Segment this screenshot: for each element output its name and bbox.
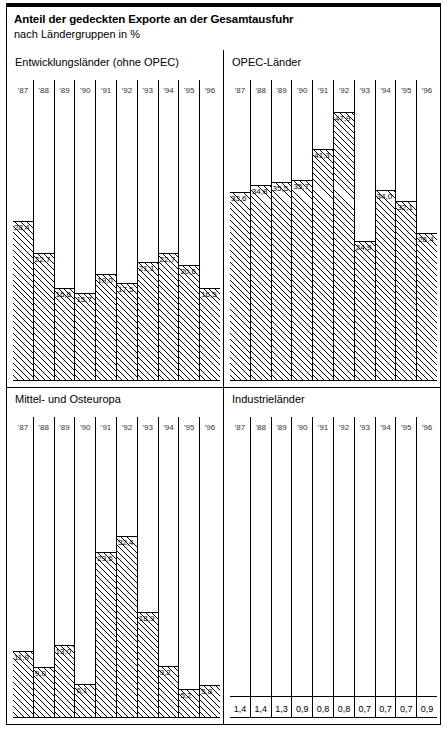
bar: 47,9 — [334, 112, 354, 381]
bar-slot: 35,7 — [291, 100, 312, 381]
bar: 16,6 — [55, 288, 75, 381]
bar-slot: 5,8 — [199, 437, 220, 718]
chart-title: Anteil der gedeckten Exporte an der Gesa… — [14, 12, 429, 26]
bar-slot: 34,0 — [375, 100, 396, 381]
bar-slot: 16,5 — [199, 100, 220, 381]
bar-value-label: 41,3 — [314, 151, 330, 160]
bar-value-label: 21,1 — [139, 264, 155, 273]
bar-slot: 22,7 — [158, 100, 179, 381]
bar: 5,2 — [179, 689, 199, 718]
bar: 33,6 — [230, 192, 250, 381]
bar: 28,4 — [13, 221, 33, 381]
year-axis-entwicklungslander-ohne-opec: '87'88'89'90'91'92'93'94'95'96 — [13, 80, 220, 100]
year-tick: '87 — [13, 417, 33, 437]
bar-slot: 24,9 — [354, 100, 375, 381]
year-tick: '88 — [250, 80, 271, 100]
bar-value-label: 47,9 — [335, 114, 351, 123]
panel-grid: Entwicklungsländer (ohne OPEC)'87'88'89'… — [7, 50, 440, 724]
year-tick: '93 — [137, 80, 158, 100]
year-tick: '87 — [230, 80, 250, 100]
bar: 0,8 — [334, 696, 354, 718]
year-tick: '90 — [74, 417, 95, 437]
year-tick: '90 — [74, 80, 95, 100]
bar-slot: 9,2 — [158, 437, 179, 718]
bar-slot: 0,7 — [375, 437, 396, 718]
bar: 9,2 — [159, 666, 179, 718]
bar: 1,4 — [251, 696, 271, 718]
bar: 0,9 — [292, 696, 312, 718]
year-tick: '92 — [116, 80, 137, 100]
bar-slot: 32,4 — [116, 437, 137, 718]
bar-value-label: 9,0 — [35, 669, 46, 678]
bar-slot: 0,8 — [333, 437, 354, 718]
bar-slot: 19,0 — [95, 100, 116, 381]
bar-slot: 47,9 — [333, 100, 354, 381]
bar-slot: 9,0 — [33, 437, 54, 718]
bar: 15,7 — [75, 293, 95, 381]
bar-slot: 0,9 — [416, 437, 437, 718]
year-tick: '94 — [375, 417, 396, 437]
year-tick: '90 — [291, 417, 312, 437]
panel-mittel-osteuropa: Mittel- und Osteuropa'87'88'89'90'91'92'… — [7, 387, 223, 724]
bar: 19,0 — [96, 274, 116, 381]
year-tick: '88 — [33, 417, 54, 437]
bar-value-label: 16,6 — [56, 290, 72, 299]
bar-slot: 34,8 — [250, 100, 271, 381]
bar: 21,1 — [138, 262, 158, 381]
bar: 5,8 — [200, 685, 220, 718]
bar-slot: 41,3 — [312, 100, 333, 381]
bar-slot: 18,9 — [137, 437, 158, 718]
panel-row-top: Entwicklungsländer (ohne OPEC)'87'88'89'… — [7, 50, 440, 387]
bar-slot: 35,5 — [271, 100, 292, 381]
panel-opec: OPEC-Länder'87'88'89'90'91'92'93'94'95'9… — [224, 50, 440, 387]
plot-area-entwicklungslander-ohne-opec: 28,422,716,615,719,017,521,122,720,616,5 — [13, 100, 220, 381]
bar: 32,4 — [117, 536, 137, 718]
bar-value-label: 34,8 — [252, 187, 268, 196]
panel-title-mittel-und-osteuropa: Mittel- und Osteuropa — [15, 393, 121, 405]
bar: 35,5 — [272, 182, 292, 382]
year-axis-mittel-und-osteuropa: '87'88'89'90'91'92'93'94'95'96 — [13, 417, 220, 437]
bar-value-label: 5,8 — [201, 687, 212, 696]
bar-slot: 22,7 — [33, 100, 54, 381]
chart-heading: Anteil der gedeckten Exporte an der Gesa… — [14, 12, 429, 41]
bar-value-label: 16,5 — [201, 290, 217, 299]
bar-slot: 6,1 — [74, 437, 95, 718]
year-tick: '89 — [54, 417, 75, 437]
bar-value-label: 0,8 — [334, 705, 354, 714]
year-tick: '96 — [199, 417, 220, 437]
bar-value-label: 24,9 — [356, 243, 372, 252]
panel-row-bottom: Mittel- und Osteuropa'87'88'89'90'91'92'… — [7, 387, 440, 724]
year-tick: '94 — [375, 80, 396, 100]
bar-slot: 17,5 — [116, 100, 137, 381]
bar-value-label: 0,7 — [396, 705, 416, 714]
bar: 13,0 — [55, 645, 75, 718]
bar-slot: 20,6 — [178, 100, 199, 381]
year-tick: '96 — [199, 80, 220, 100]
bar-slot: 0,7 — [354, 437, 375, 718]
bar-slot: 1,4 — [250, 437, 271, 718]
bar-value-label: 22,7 — [35, 255, 51, 264]
year-tick: '91 — [312, 417, 333, 437]
bar-value-label: 33,6 — [231, 194, 247, 203]
bar: 0,8 — [313, 696, 333, 718]
baseline — [230, 380, 437, 381]
bar: 1,4 — [230, 696, 250, 718]
bar: 26,4 — [417, 233, 437, 381]
bar-value-label: 22,7 — [160, 255, 176, 264]
year-tick: '96 — [416, 80, 437, 100]
bar-slot: 33,6 — [230, 100, 250, 381]
bar-slot: 0,8 — [312, 437, 333, 718]
bar-slot: 26,4 — [416, 100, 437, 381]
bar-value-label: 32,1 — [397, 203, 413, 212]
year-tick: '92 — [333, 80, 354, 100]
baseline — [230, 717, 437, 718]
bar-value-label: 15,7 — [76, 295, 92, 304]
bar-value-label: 34,0 — [377, 192, 393, 201]
year-tick: '87 — [230, 417, 250, 437]
bar: 34,0 — [376, 190, 396, 381]
bar-slot: 5,2 — [178, 437, 199, 718]
plot-area-industrielander: 1,41,41,30,90,80,80,70,70,70,9 — [230, 437, 437, 718]
bar-slot: 28,4 — [13, 100, 33, 381]
bar: 16,5 — [200, 288, 220, 381]
bar: 0,7 — [396, 696, 416, 718]
